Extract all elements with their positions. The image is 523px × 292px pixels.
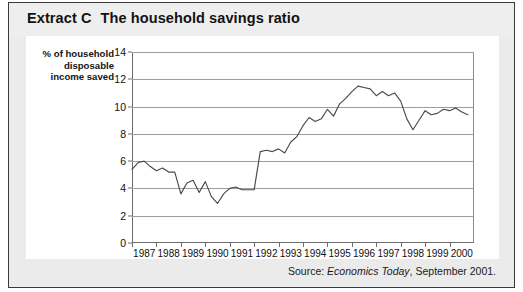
- x-tick-mark: [450, 243, 451, 247]
- y-tick-label: 2: [120, 210, 126, 222]
- x-tick-mark: [205, 243, 206, 247]
- x-tick-label: 1988: [158, 248, 180, 259]
- x-tick-label: 2000: [451, 248, 473, 259]
- y-tick-label: 14: [114, 46, 126, 58]
- x-tick-label: 1996: [353, 248, 375, 259]
- x-tick-mark: [254, 243, 255, 247]
- x-tick-label: 1989: [182, 248, 204, 259]
- series-line-savings-ratio: [132, 52, 474, 243]
- x-tick-mark: [132, 243, 133, 247]
- extract-label: Extract C: [27, 10, 92, 26]
- y-tick-label: 8: [120, 128, 126, 140]
- x-tick-mark: [156, 243, 157, 247]
- x-tick-mark: [376, 243, 377, 247]
- x-tick-mark: [352, 243, 353, 247]
- x-tick-mark: [303, 243, 304, 247]
- x-tick-mark: [279, 243, 280, 247]
- x-tick-label: 1999: [426, 248, 448, 259]
- x-tick-label: 1997: [377, 248, 399, 259]
- plot-area: 02468101214 1987198819891990199119921993…: [132, 52, 474, 243]
- x-tick-label: 1992: [255, 248, 277, 259]
- x-tick-label: 1987: [133, 248, 155, 259]
- source-suffix: , September 2001.: [410, 265, 496, 277]
- x-tick-mark: [401, 243, 402, 247]
- x-tick-mark: [425, 243, 426, 247]
- y-tick-label: 0: [120, 237, 126, 249]
- source-prefix: Source:: [288, 265, 327, 277]
- chart-panel: % of household disposable income saved 0…: [26, 36, 499, 259]
- x-tick-label: 1994: [304, 248, 326, 259]
- x-tick-label: 1991: [231, 248, 253, 259]
- y-tick-label: 10: [114, 101, 126, 113]
- x-tick-mark: [230, 243, 231, 247]
- y-axis-caption: % of household disposable income saved: [30, 48, 114, 83]
- extract-frame: Extract CThe household savings ratio % o…: [8, 2, 515, 288]
- x-tick-label: 1990: [206, 248, 228, 259]
- y-tick-label: 4: [120, 182, 126, 194]
- extract-header: Extract CThe household savings ratio: [9, 3, 514, 37]
- source-citation: Source: Economics Today, September 2001.: [288, 265, 496, 277]
- y-tick-label: 12: [114, 73, 126, 85]
- source-publication: Economics Today: [327, 265, 410, 277]
- extract-title-text: The household savings ratio: [101, 10, 300, 26]
- y-tick-label: 6: [120, 155, 126, 167]
- x-tick-mark: [181, 243, 182, 247]
- x-tick-label: 1998: [402, 248, 424, 259]
- x-tick-label: 1995: [329, 248, 351, 259]
- page-title: Extract CThe household savings ratio: [27, 10, 300, 26]
- x-tick-mark: [327, 243, 328, 247]
- x-tick-label: 1993: [280, 248, 302, 259]
